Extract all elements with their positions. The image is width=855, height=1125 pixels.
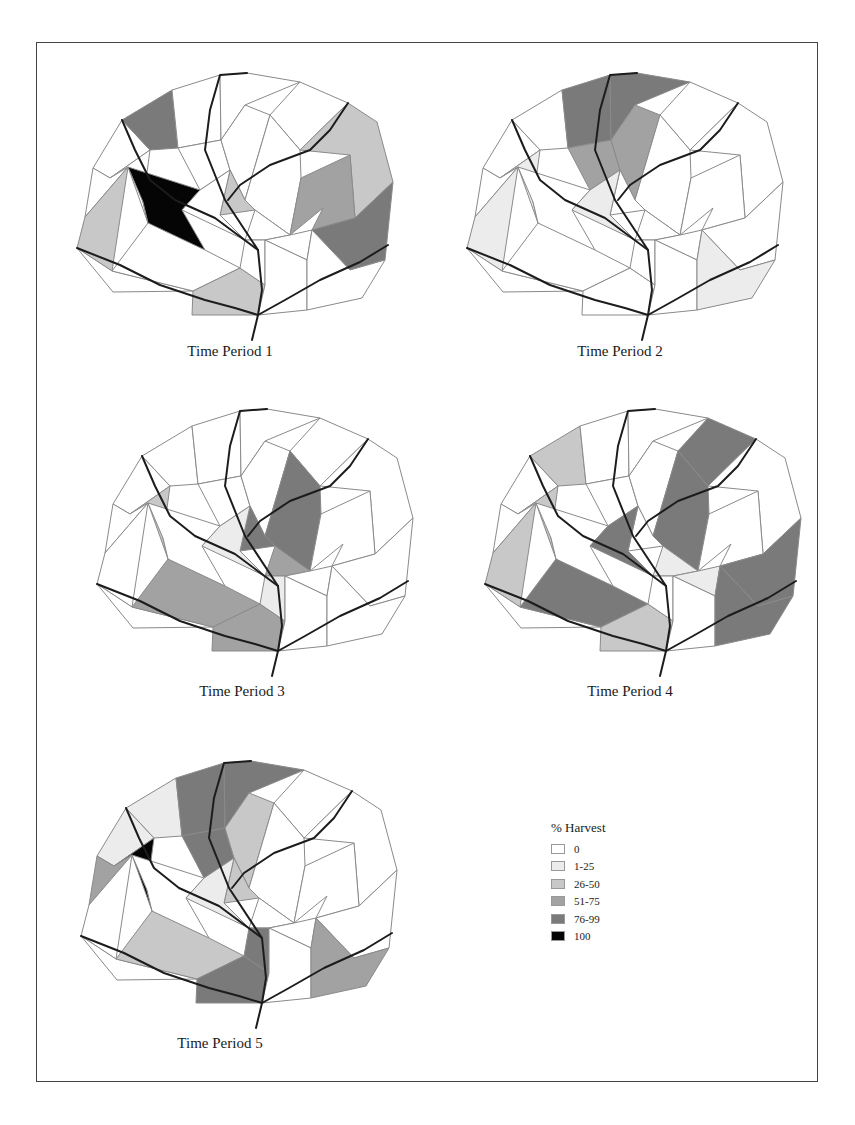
legend: % Harvest 01-2526-5051-7576-99100 (551, 820, 606, 945)
map-panel-2 (467, 73, 783, 340)
legend-swatch (551, 861, 565, 871)
legend-swatch (551, 879, 565, 889)
legend-item: 26-50 (551, 875, 606, 893)
legend-swatch (551, 896, 565, 906)
harvest-cell-n2 (562, 75, 611, 148)
legend-item: 1-25 (551, 858, 606, 876)
legend-label: 0 (574, 843, 580, 855)
legend-item: 76-99 (551, 910, 606, 928)
legend-item: 100 (551, 928, 606, 946)
harvest-maps: Time Period 1Time Period 2Time Period 3T… (0, 0, 855, 1125)
legend-label: 76-99 (574, 913, 600, 925)
harvest-cell-n2 (580, 411, 629, 484)
panel-caption-1: Time Period 1 (187, 343, 272, 359)
harvest-cell-n2 (172, 75, 221, 148)
panel-caption-2: Time Period 2 (577, 343, 662, 359)
legend-swatch (551, 914, 565, 924)
harvest-cell-n2 (192, 411, 241, 484)
legend-label: 1-25 (574, 860, 594, 872)
legend-item: 0 (551, 840, 606, 858)
legend-swatch (551, 931, 565, 941)
legend-title: % Harvest (551, 820, 606, 836)
panel-caption-3: Time Period 3 (199, 683, 284, 699)
legend-label: 100 (574, 930, 591, 942)
legend-swatch (551, 844, 565, 854)
panel-caption-5: Time Period 5 (177, 1035, 262, 1051)
map-panel-3 (97, 409, 413, 676)
panel-caption-4: Time Period 4 (587, 683, 673, 699)
map-panel-5 (81, 761, 397, 1028)
map-panel-4 (485, 409, 801, 676)
legend-item: 51-75 (551, 893, 606, 911)
legend-label: 51-75 (574, 895, 600, 907)
map-panel-1 (77, 73, 393, 340)
legend-label: 26-50 (574, 878, 600, 890)
harvest-cell-n2 (176, 763, 225, 836)
